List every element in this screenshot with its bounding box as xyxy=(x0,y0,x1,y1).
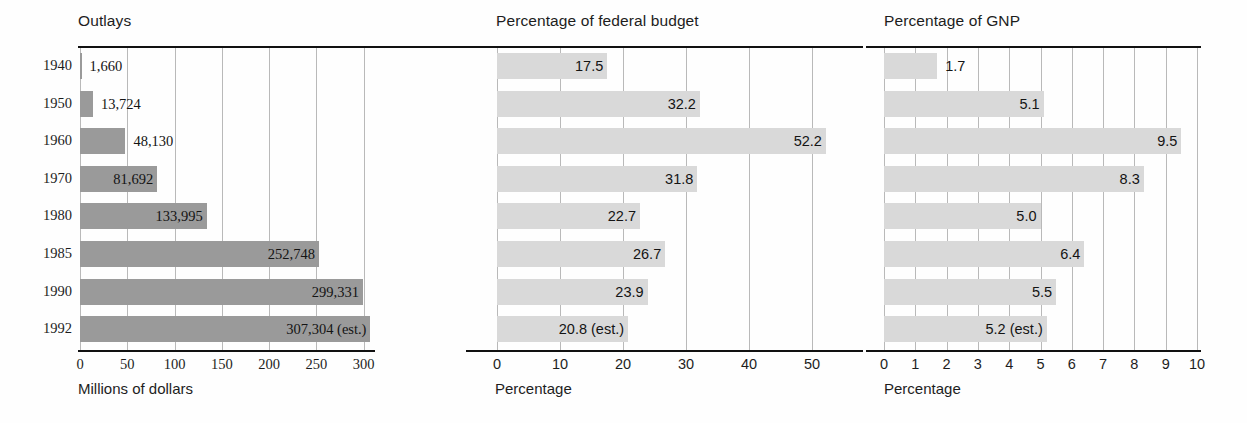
bar-value-label: 17.5 xyxy=(575,53,603,79)
bar-row: 307,304 (est.) xyxy=(80,316,373,342)
bar-row: 48,130 xyxy=(80,128,373,154)
tick-label: 40 xyxy=(719,356,779,372)
plot-area-federal-budget: 17.532.252.231.822.726.723.920.8 (est.) xyxy=(497,48,812,350)
bar-value-label: 133,995 xyxy=(156,203,203,229)
bar-row: 31.8 xyxy=(497,166,812,192)
year-label: 1960 xyxy=(22,132,72,149)
bar-row: 9.5 xyxy=(884,128,1197,154)
bar-row: 22.7 xyxy=(497,203,812,229)
axis-caption-gnp: Percentage xyxy=(884,380,961,397)
bar-row: 13,724 xyxy=(80,91,373,117)
bar-value-label: 52.2 xyxy=(794,128,822,154)
bar-row: 23.9 xyxy=(497,279,812,305)
bar[interactable] xyxy=(80,128,125,154)
bar-row: 81,692 xyxy=(80,166,373,192)
bar-value-label: 48,130 xyxy=(133,128,173,154)
defense-outlays-figure: Outlays Percentage of federal budget Per… xyxy=(0,0,1247,423)
bar[interactable] xyxy=(884,241,1084,267)
bar-value-label: 31.8 xyxy=(665,166,693,192)
bar-value-label: 26.7 xyxy=(633,241,661,267)
bar-value-label: 252,748 xyxy=(268,241,315,267)
bar-value-label: 299,331 xyxy=(312,279,359,305)
baseline-outlays xyxy=(78,350,375,352)
bar-row: 20.8 (est.) xyxy=(497,316,812,342)
tick-label: 30 xyxy=(656,356,716,372)
tick-label: 10 xyxy=(530,356,590,372)
bar[interactable] xyxy=(80,53,82,79)
bar-row: 252,748 xyxy=(80,241,373,267)
axis-caption-outlays: Millions of dollars xyxy=(78,380,193,397)
year-label: 1950 xyxy=(22,95,72,112)
bar-row: 133,995 xyxy=(80,203,373,229)
year-label: 1970 xyxy=(22,170,72,187)
bar-row: 299,331 xyxy=(80,279,373,305)
bar-value-label: 22.7 xyxy=(608,203,636,229)
panel-title-outlays: Outlays xyxy=(78,12,131,30)
bar-value-label: 81,692 xyxy=(113,166,153,192)
bar-value-label: 1.7 xyxy=(945,53,965,79)
year-label: 1980 xyxy=(22,207,72,224)
bar-value-label: 307,304 (est.) xyxy=(286,316,366,342)
bar-row: 17.5 xyxy=(497,53,812,79)
year-label: 1992 xyxy=(22,320,72,337)
bar-value-label: 8.3 xyxy=(1120,166,1140,192)
bar[interactable] xyxy=(884,279,1056,305)
bar-row: 6.4 xyxy=(884,241,1197,267)
bar-value-label: 6.4 xyxy=(1060,241,1080,267)
plot-area-gnp: 1.75.19.58.35.06.45.55.2 (est.) xyxy=(884,48,1197,350)
bar-row: 5.2 (est.) xyxy=(884,316,1197,342)
tick-label: 300 xyxy=(334,356,394,373)
bar-value-label: 9.5 xyxy=(1157,128,1177,154)
bar-value-label: 20.8 (est.) xyxy=(559,316,624,342)
bar-row: 5.5 xyxy=(884,279,1197,305)
gridline xyxy=(812,48,813,350)
bar-row: 52.2 xyxy=(497,128,812,154)
plot-area-outlays: 1,66013,72448,13081,692133,995252,748299… xyxy=(80,48,373,350)
tick-label: 20 xyxy=(593,356,653,372)
bar[interactable] xyxy=(80,91,93,117)
bar-value-label: 13,724 xyxy=(101,91,141,117)
tick-label: 10 xyxy=(1167,356,1227,372)
bar[interactable] xyxy=(884,53,937,79)
bar-value-label: 1,660 xyxy=(90,53,123,79)
bar-value-label: 5.1 xyxy=(1019,91,1039,117)
bar-value-label: 23.9 xyxy=(615,279,643,305)
bar[interactable] xyxy=(884,166,1144,192)
year-label: 1985 xyxy=(22,245,72,262)
bar-row: 1.7 xyxy=(884,53,1197,79)
bar-value-label: 5.5 xyxy=(1032,279,1052,305)
bar-value-label: 32.2 xyxy=(668,91,696,117)
bar-row: 8.3 xyxy=(884,166,1197,192)
tick-label: 50 xyxy=(782,356,842,372)
bar[interactable] xyxy=(497,128,826,154)
axis-caption-federal-budget: Percentage xyxy=(495,380,572,397)
bar-row: 1,660 xyxy=(80,53,373,79)
panel-title-federal-budget: Percentage of federal budget xyxy=(496,12,699,30)
bar-row: 26.7 xyxy=(497,241,812,267)
year-label: 1940 xyxy=(22,57,72,74)
bar-row: 5.0 xyxy=(884,203,1197,229)
year-label: 1990 xyxy=(22,283,72,300)
gridline xyxy=(1197,48,1198,350)
baseline-federal-budget xyxy=(466,350,863,352)
bar[interactable] xyxy=(884,128,1181,154)
tick-label: 0 xyxy=(467,356,527,372)
panel-title-gnp: Percentage of GNP xyxy=(884,12,1020,30)
baseline-gnp xyxy=(866,350,1201,352)
bar-row: 32.2 xyxy=(497,91,812,117)
bar-value-label: 5.0 xyxy=(1016,203,1036,229)
bar-value-label: 5.2 (est.) xyxy=(986,316,1043,342)
bar-row: 5.1 xyxy=(884,91,1197,117)
